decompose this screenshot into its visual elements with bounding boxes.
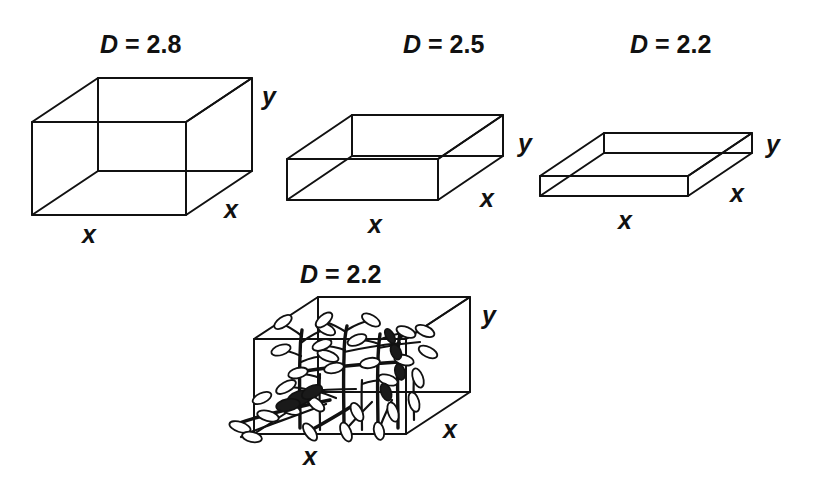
- panel-2-title-rest: = 2.5: [428, 30, 484, 58]
- panel-1-right-face: [186, 78, 252, 215]
- figure-root: D= 2.8 y x x D= 2.5 y x x D=: [0, 0, 815, 491]
- panel-2-x-label-bottom: x: [366, 210, 383, 238]
- panel-2-x-label-right: x: [478, 184, 495, 212]
- panel-3-x-label-bottom: x: [616, 206, 633, 234]
- leaf-dark: [383, 327, 398, 345]
- panel-4-x-label-bottom: x: [301, 442, 318, 470]
- leaf: [348, 401, 366, 423]
- panel-1-x-label-right: x: [222, 195, 239, 223]
- vegetation-lateral-branch-1: [300, 361, 410, 372]
- panel-1-title-rest: = 2.8: [125, 30, 181, 58]
- panel-2-title: D= 2.5: [403, 30, 484, 58]
- leaf: [372, 421, 386, 441]
- panel-4-title-symbol: D: [300, 260, 318, 288]
- panel-3-front-face: [540, 176, 688, 196]
- vegetation-stem-2: [344, 326, 347, 430]
- panel-1-y-label: y: [260, 82, 277, 110]
- leaf: [346, 332, 368, 349]
- leaf: [300, 421, 320, 443]
- panel-1-x-label-bottom: x: [80, 220, 97, 248]
- leaf: [410, 367, 426, 389]
- panel-2-title-symbol: D: [403, 30, 421, 58]
- leaf: [287, 366, 309, 381]
- panel-4-right-face: [406, 297, 470, 434]
- panel-4-title: D= 2.2: [300, 260, 381, 288]
- leaf: [414, 322, 436, 339]
- panel-3-y-label: y: [764, 130, 781, 158]
- fractal-dimension-figure: D= 2.8 y x x D= 2.5 y x x D=: [0, 0, 815, 491]
- panel-3-title: D= 2.2: [630, 30, 711, 58]
- vegetation-leaves: [228, 310, 439, 444]
- panel-4-title-rest: = 2.2: [325, 260, 381, 288]
- panel-2-box-medium: [287, 115, 503, 200]
- panel-1-title-symbol: D: [100, 30, 118, 58]
- panel-2-interior-diagonal: [287, 156, 352, 200]
- panel-2-front-face: [287, 159, 438, 200]
- leaf: [323, 361, 345, 375]
- panel-3-title-symbol: D: [630, 30, 648, 58]
- panel-1-title: D= 2.8: [100, 30, 181, 58]
- panel-4-y-label: y: [480, 301, 497, 329]
- panel-3-x-label-right: x: [728, 179, 745, 207]
- panel-3-box-flat: [540, 133, 752, 196]
- panel-1-interior-diagonal: [32, 171, 98, 215]
- leaf: [270, 342, 292, 358]
- panel-4-x-label-right: x: [441, 415, 458, 443]
- leaf: [360, 311, 382, 330]
- vegetation-cluster: [228, 310, 439, 444]
- panel-1-front-face: [32, 122, 186, 215]
- leaf: [406, 391, 421, 413]
- leaf: [417, 343, 439, 361]
- panel-3-interior-diagonal: [540, 153, 604, 196]
- leaf: [241, 430, 263, 444]
- panel-4-box-vegetation: [228, 297, 470, 444]
- panel-1-box-tall: [32, 78, 252, 215]
- panel-3-title-rest: = 2.2: [655, 30, 711, 58]
- panel-2-y-label: y: [516, 129, 533, 157]
